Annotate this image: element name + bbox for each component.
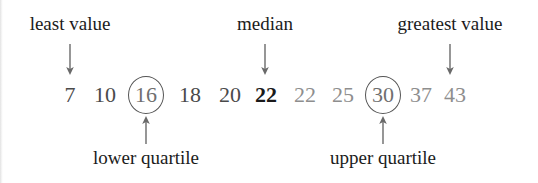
data-value-1: 7 [65,80,76,110]
data-value-2: 10 [94,80,116,110]
data-value-11: 43 [444,80,466,110]
five-number-summary-figure: least value median greatest value 7 10 1… [0,0,538,183]
greatest-value-label: greatest value [398,14,503,33]
median-arrow-down-icon [258,44,272,76]
upper-quartile-arrow-up-icon [376,116,390,144]
data-value-4: 18 [179,80,201,110]
data-value-3-lower-quartile: 16 [135,80,157,110]
number-row: 7 10 16 18 20 22 22 25 30 37 43 [0,80,538,110]
data-value-6-median: 22 [255,80,277,110]
lower-quartile-label: lower quartile [93,148,199,167]
data-value-5: 20 [219,80,241,110]
lower-quartile-arrow-up-icon [139,116,153,144]
data-value-7: 22 [294,80,316,110]
greatest-value-arrow-down-icon [443,44,457,76]
least-value-arrow-down-icon [63,44,77,76]
least-value-label: least value [30,14,111,33]
data-value-9-upper-quartile: 30 [372,80,394,110]
upper-quartile-label: upper quartile [330,148,436,167]
data-value-8: 25 [332,80,354,110]
data-value-10: 37 [410,80,432,110]
median-label: median [237,14,293,33]
